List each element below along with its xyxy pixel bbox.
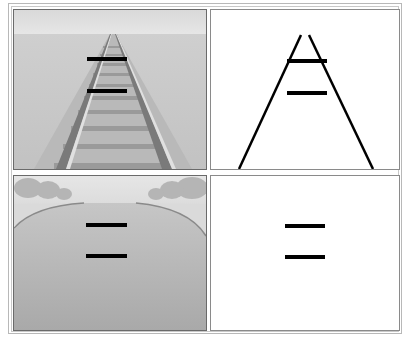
line-drawing [211, 10, 399, 169]
right-converging-line [309, 35, 373, 169]
road-photo [14, 176, 206, 330]
bars-only [211, 176, 399, 330]
panel-road-photo [13, 175, 207, 331]
upper-bar [86, 223, 127, 227]
lower-bar [287, 91, 327, 95]
road [14, 203, 206, 330]
upper-bar [87, 57, 127, 61]
left-converging-line [239, 35, 301, 169]
panel-railroad-line-drawing [210, 9, 400, 170]
upper-bar [287, 59, 327, 63]
lower-bar [86, 254, 127, 258]
upper-bar [285, 224, 325, 228]
panel-railroad-photo [13, 9, 207, 170]
sky [14, 10, 206, 34]
lower-bar [87, 89, 127, 93]
panel-bars-only [210, 175, 400, 331]
railroad-photo [14, 10, 206, 169]
lower-bar [285, 255, 325, 259]
